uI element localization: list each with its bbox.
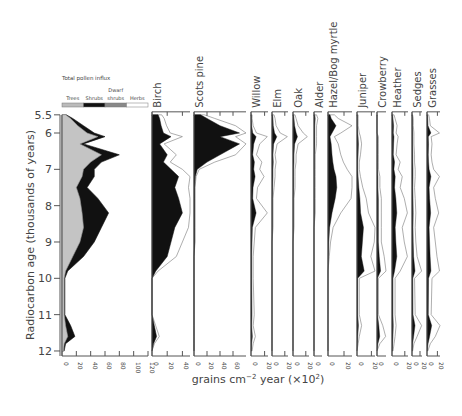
- taxon-panel-willow: 020Willow: [251, 76, 273, 370]
- taxon-label: Oak: [293, 88, 304, 108]
- x-tick-label: 20: [438, 362, 445, 370]
- x-tick-label: 0: [273, 362, 280, 366]
- legend-label: Shrubs: [86, 95, 104, 101]
- y-axis: 5.56789101112: [35, 109, 61, 358]
- x-tick-label: 60: [234, 362, 241, 370]
- pollen-diagram: 5.56789101112 Total pollen influxTreesSh…: [0, 0, 462, 416]
- x-tick-label: 0: [329, 362, 336, 366]
- x-axis-label: grains cm−2 year (×102): [192, 373, 324, 386]
- x-tick-label: 0: [195, 362, 202, 366]
- total-pollen-influx-panel: Total pollen influxTreesShrubsDwarfshrub…: [61, 75, 156, 374]
- x-tick-label: 0: [315, 362, 322, 366]
- taxon-label: Scots pine: [194, 56, 205, 108]
- y-tick-label: 9: [45, 236, 52, 249]
- taxon-panel-crowberry: 0Crowberry: [377, 56, 388, 366]
- x-tick-label: 0: [63, 362, 70, 366]
- taxon-label: Juniper: [357, 72, 368, 109]
- y-tick-label: 12: [38, 345, 52, 358]
- influx-title: Total pollen influx: [61, 75, 111, 82]
- taxon-label: Willow: [251, 76, 262, 108]
- x-tick-label: 0: [252, 362, 259, 366]
- taxon-label: Sedges: [412, 71, 423, 108]
- x-tick-label: 40: [92, 362, 99, 370]
- x-tick-label: 0: [358, 362, 365, 366]
- x-tick-label: 0: [294, 362, 301, 366]
- legend-swatch: [84, 103, 106, 107]
- taxon-label: Heather: [392, 67, 403, 108]
- x-tick-label: 0: [393, 362, 400, 366]
- taxon-panel-hazel-bog-myrtle: 020Hazel/Bog myrtle: [328, 22, 352, 370]
- x-tick-label: 40: [183, 362, 190, 370]
- taxon-panel-sedges: 020Sedges: [412, 71, 428, 370]
- x-tick-label: 80: [120, 362, 127, 370]
- y-tick-label: 10: [38, 272, 52, 285]
- taxon-panel-oak: 020Oak: [293, 88, 314, 370]
- svg-text:Dwarf: Dwarf: [108, 87, 123, 93]
- x-tick-label: 0: [428, 362, 435, 366]
- x-tick-label: 0: [413, 362, 420, 366]
- taxon-panel-elm: 020Elm: [272, 89, 293, 370]
- legend-swatch: [62, 103, 84, 107]
- taxon-panel-grasses: 020Grasses: [427, 68, 445, 370]
- y-axis-label: Radiocarbon age (thousands of years): [24, 130, 37, 340]
- taxon-label: Hazel/Bog myrtle: [328, 22, 339, 108]
- y-tick-label: 5.5: [35, 109, 53, 122]
- taxon-panel-scots-pine: 0204060Scots pine: [194, 56, 246, 370]
- x-tick-label: 60: [106, 362, 113, 370]
- x-tick-label: 0: [153, 362, 160, 366]
- taxon-panel-heather: 020Heather: [392, 67, 413, 370]
- y-tick-label: 6: [45, 127, 52, 140]
- x-tick-label: 20: [77, 362, 84, 370]
- taxon-label: Alder: [314, 81, 325, 108]
- taxa-panels: 02040Birch0204060Scots pine020Willow020E…: [152, 22, 445, 370]
- svg-text:shrubs: shrubs: [107, 95, 124, 101]
- x-tick-label: 40: [221, 362, 228, 370]
- x-tick-label: 20: [345, 362, 352, 370]
- taxon-label: Grasses: [427, 68, 438, 108]
- y-tick-label: 8: [45, 200, 52, 213]
- x-tick-label: 0: [378, 362, 385, 366]
- legend-label: Herbs: [130, 95, 145, 101]
- x-tick-label: 20: [406, 362, 413, 370]
- x-tick-label: 20: [168, 362, 175, 370]
- taxon-label: Elm: [272, 89, 283, 108]
- y-tick-label: 7: [45, 163, 52, 176]
- x-tick-label: 20: [307, 362, 314, 370]
- legend-swatch: [105, 103, 127, 107]
- taxon-panel-birch: 02040Birch: [152, 82, 190, 369]
- legend-swatch: [127, 103, 149, 107]
- x-tick-label: 20: [286, 362, 293, 370]
- x-tick-label: 100: [135, 362, 142, 374]
- taxon-label: Crowberry: [377, 56, 388, 108]
- x-tick-label: 20: [421, 362, 428, 370]
- taxon-panel-alder: 0Alder: [314, 81, 325, 366]
- taxon-label: Birch: [152, 82, 163, 107]
- legend-label: Trees: [65, 95, 79, 101]
- x-tick-label: 20: [266, 362, 273, 370]
- taxon-panel-juniper: 020Juniper: [357, 72, 379, 370]
- x-tick-label: 20: [208, 362, 215, 370]
- y-tick-label: 11: [38, 309, 52, 322]
